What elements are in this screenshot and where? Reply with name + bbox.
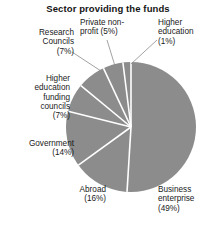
slice-label-government: Government (14%) (2, 139, 74, 158)
leader-line-research-councils (72, 52, 101, 71)
leader-line-private-non-profit (107, 40, 115, 66)
slice-label-abroad: Abroad (16%) (54, 185, 106, 204)
slice-label-research-councils: Research Councils (7%) (14, 28, 74, 56)
slice-label-private-non-profit: Private non- profit (5%) (80, 18, 142, 37)
slice-label-higher-education-funding-councils: Higher education funding councils (7%) (8, 74, 70, 120)
slice-label-higher-education: Higher education (1%) (158, 18, 214, 46)
pie-chart-figure: Sector providing the funds Research Coun… (0, 0, 216, 225)
slice-label-business-enterprise: Business enterprise (49%) (158, 185, 216, 213)
leader-line-higher-education (131, 40, 157, 64)
